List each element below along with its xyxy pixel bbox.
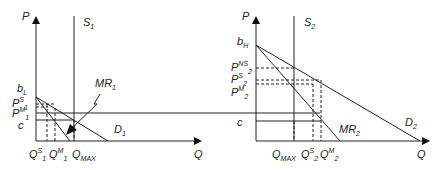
pm2-label: PM2: [231, 85, 248, 100]
right-mr-line: [256, 45, 340, 141]
qs1-label: QS1: [29, 147, 46, 162]
s1-label: S1: [83, 16, 94, 30]
mr2-label: MR2: [339, 123, 360, 137]
right-demand-line: [256, 45, 420, 141]
qmax1-label: QMAX: [72, 148, 96, 162]
right-p-label: P: [242, 10, 250, 22]
mr1-pointer-head-icon: [66, 124, 77, 135]
qmax2-label: QMAX: [272, 148, 296, 162]
right-labels: P Q S2 D2 MR2 bH PNS2 PS2 PM2 c QMAX QS2…: [231, 10, 426, 162]
c2-label: c: [237, 116, 243, 128]
left-p-label: P: [22, 10, 30, 22]
two-market-diagram: P Q S1 D1 MR1 bL PS1 PM1 c QS1 QM1 QMAX …: [0, 0, 441, 170]
qm2-label: QM2: [320, 147, 338, 162]
left-panel: [36, 16, 320, 141]
d1-label: D1: [114, 123, 126, 137]
bh-label: bH: [237, 35, 249, 49]
qs2-label: QS2: [301, 147, 318, 162]
d2-label: D2: [405, 116, 417, 130]
left-q-label: Q: [194, 148, 203, 160]
right-q-label: Q: [417, 148, 426, 160]
bl-label: bL: [17, 82, 27, 96]
mr1-label: MR1: [95, 77, 116, 91]
left-labels: P Q S1 D1 MR1 bL PS1 PM1 c QS1 QM1 QMAX: [12, 10, 203, 162]
c1-label: c: [18, 119, 24, 131]
s2-label: S2: [304, 16, 315, 30]
qm1-label: QM1: [49, 147, 67, 162]
mr1-pointer: [72, 94, 100, 128]
